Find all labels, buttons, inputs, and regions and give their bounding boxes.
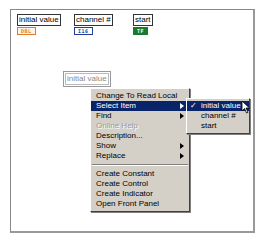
menu-item-label: Create Control (96, 179, 148, 188)
menu-item-label: Show (96, 141, 116, 150)
menu-separator (92, 164, 188, 166)
menu-item-label: Change To Read Local (96, 91, 177, 100)
i16-type-icon: I16 (74, 27, 93, 35)
mouse-cursor-icon (241, 100, 251, 114)
terminal-label: channel # (74, 14, 113, 26)
menu-item-label: Find (96, 111, 112, 120)
submenu-item-start[interactable]: start (187, 121, 249, 131)
menu-item-label: Select Item (96, 101, 136, 110)
menu-item-find[interactable]: Find (91, 111, 189, 121)
menu-item-label: Create Constant (96, 169, 154, 178)
menu-item-label: Create Indicator (96, 189, 153, 198)
menu-item-show[interactable]: Show (91, 141, 189, 151)
menu-item-label: Online Help (96, 121, 138, 130)
submenu-arrow-icon (180, 153, 184, 159)
terminal-label: start (133, 14, 153, 26)
terminal-label: initial value (17, 14, 61, 26)
menu-item-label: Replace (96, 151, 125, 160)
checkmark-icon: ✓ (190, 101, 197, 111)
menu-item-description[interactable]: Description... (91, 131, 189, 141)
submenu-item-initial-value[interactable]: ✓initial value (187, 101, 249, 111)
menu-item-replace[interactable]: Replace (91, 151, 189, 161)
start-terminal[interactable]: start TF (133, 14, 153, 35)
submenu-item-label: initial value (201, 101, 241, 110)
submenu-arrow-icon (180, 143, 184, 149)
submenu-item-label: channel # (201, 111, 236, 120)
menu-item-online-help: Online Help (91, 121, 189, 131)
local-variable[interactable]: initial value (63, 71, 111, 87)
menu-item-change-to-read-local[interactable]: Change To Read Local (91, 91, 189, 101)
submenu-arrow-icon (180, 103, 184, 109)
channel-terminal[interactable]: channel # I16 (74, 14, 113, 35)
dbl-type-icon: DBL (17, 27, 36, 35)
local-variable-label: initial value (65, 73, 109, 85)
menu-item-select-item[interactable]: Select Item (91, 101, 189, 111)
submenu-item-label: start (201, 121, 217, 130)
submenu-item-channel[interactable]: channel # (187, 111, 249, 121)
menu-item-open-front-panel[interactable]: Open Front Panel (91, 199, 189, 209)
initial-value-terminal[interactable]: initial value DBL (17, 14, 61, 35)
menu-item-create-indicator[interactable]: Create Indicator (91, 189, 189, 199)
tf-type-icon: TF (133, 27, 148, 35)
submenu-arrow-icon (180, 113, 184, 119)
menu-item-create-constant[interactable]: Create Constant (91, 169, 189, 179)
menu-item-label: Description... (96, 131, 143, 140)
menu-item-label: Open Front Panel (96, 199, 159, 208)
context-menu: Change To Read Local Select Item Find On… (90, 88, 190, 212)
menu-item-create-control[interactable]: Create Control (91, 179, 189, 189)
